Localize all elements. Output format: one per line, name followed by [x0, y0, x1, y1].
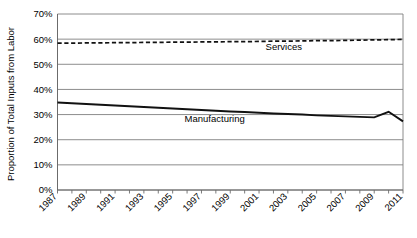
- y-tick-label: 30%: [33, 109, 53, 120]
- services-label: Services: [266, 41, 303, 52]
- y-tick-label: 50%: [33, 59, 53, 70]
- line-chart: Proportion of Total Inputs from Labor 0%…: [0, 0, 417, 238]
- y-tick-label: 40%: [33, 84, 53, 95]
- y-tick-label: 10%: [33, 159, 53, 170]
- manufacturing-label: Manufacturing: [185, 113, 245, 124]
- y-tick-label: 60%: [33, 34, 53, 45]
- chart-container: Proportion of Total Inputs from Labor 0%…: [0, 0, 417, 238]
- y-axis-title-text: Proportion of Total Inputs from Labor: [5, 27, 16, 181]
- y-tick-label: 20%: [33, 134, 53, 145]
- y-tick-label: 70%: [33, 8, 53, 19]
- y-axis-title: Proportion of Total Inputs from Labor: [5, 27, 16, 181]
